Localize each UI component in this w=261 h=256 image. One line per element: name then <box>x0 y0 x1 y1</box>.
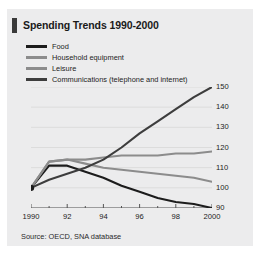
y-axis-tick-label: 150 <box>216 82 229 92</box>
x-axis-labels: 1990929496982000 <box>20 212 230 224</box>
title-accent-bar <box>12 18 17 33</box>
y-axis-tick-label: 140 <box>216 102 229 112</box>
legend-swatch-icon <box>26 56 47 59</box>
legend-item: Leisure <box>26 63 241 73</box>
line-chart-svg <box>31 87 212 208</box>
source-caption: Source: OECD, SNA database <box>21 232 121 241</box>
x-axis-tick-label: 2000 <box>198 212 226 221</box>
x-axis-tick-label: 94 <box>89 212 117 221</box>
chart-plot-area <box>31 87 212 208</box>
chart-title-row: Spending Trends 1990-2000 <box>12 17 159 33</box>
y-axis-tick-label: 130 <box>216 122 229 132</box>
y-axis-tick-label: 100 <box>216 183 229 193</box>
y-axis-tick-label: 120 <box>216 143 229 153</box>
legend-swatch-icon <box>26 78 47 81</box>
x-axis-tick-label: 96 <box>126 212 154 221</box>
legend-label: Communications (telephone and internet) <box>52 75 188 84</box>
x-axis-tick-label: 92 <box>53 212 81 221</box>
y-axis-labels: 90100110120130140150 <box>216 82 250 213</box>
legend-swatch-icon <box>26 45 47 48</box>
legend-item: Food <box>26 41 241 51</box>
x-axis-tick-label: 98 <box>162 212 190 221</box>
legend-label: Food <box>52 42 69 51</box>
legend-swatch-icon <box>26 67 47 70</box>
data-series-line <box>31 160 212 188</box>
data-series-line <box>31 87 212 188</box>
legend-label: Leisure <box>52 64 76 73</box>
x-axis-tick-label: 1990 <box>17 212 45 221</box>
page-title: Spending Trends 1990-2000 <box>23 19 159 31</box>
legend-label: Household equipment <box>52 53 124 62</box>
chart-figure: Spending Trends 1990-2000 FoodHousehold … <box>0 0 261 256</box>
legend-item: Household equipment <box>26 52 241 62</box>
y-axis-tick-label: 110 <box>216 163 228 173</box>
chart-legend: FoodHousehold equipmentLeisureCommunicat… <box>26 41 241 85</box>
data-series-line <box>31 166 212 208</box>
legend-item: Communications (telephone and internet) <box>26 74 241 84</box>
